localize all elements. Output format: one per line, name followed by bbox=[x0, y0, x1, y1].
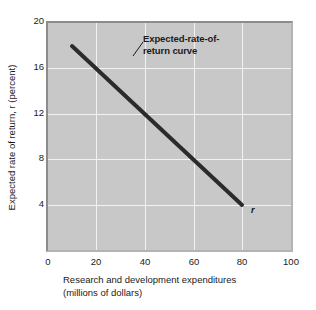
chart-figure: Expected-rate-of- return curve r 20 16 1… bbox=[0, 0, 316, 310]
x-tick-80: 80 bbox=[222, 256, 262, 267]
curve-end-label-r: r bbox=[251, 205, 255, 215]
expected-rate-of-return-curve bbox=[48, 23, 291, 250]
x-tick-40: 40 bbox=[125, 256, 165, 267]
curve-annotation-line1: Expected-rate-of- bbox=[143, 33, 219, 45]
y-tick-4: 4 bbox=[18, 199, 44, 209]
y-tick-16: 16 bbox=[18, 62, 44, 72]
y-tick-8: 8 bbox=[18, 153, 44, 163]
x-tick-0: 0 bbox=[28, 256, 68, 267]
y-tick-12: 12 bbox=[18, 108, 44, 118]
y-axis-label: Expected rate of return, r (percent) bbox=[6, 43, 17, 233]
plot-inner: Expected-rate-of- return curve r bbox=[48, 23, 291, 250]
x-axis-label-line2: (millions of dollars) bbox=[63, 287, 236, 300]
plot-area: Expected-rate-of- return curve r bbox=[46, 21, 293, 252]
curve-annotation-line2: return curve bbox=[143, 45, 219, 57]
curve-annotation: Expected-rate-of- return curve bbox=[143, 33, 219, 56]
x-tick-100: 100 bbox=[271, 256, 311, 267]
y-tick-20: 20 bbox=[18, 16, 44, 26]
x-axis-label: Research and development expenditures (m… bbox=[63, 274, 236, 299]
x-tick-60: 60 bbox=[174, 256, 214, 267]
x-tick-20: 20 bbox=[76, 256, 116, 267]
x-axis-label-line1: Research and development expenditures bbox=[63, 274, 236, 287]
